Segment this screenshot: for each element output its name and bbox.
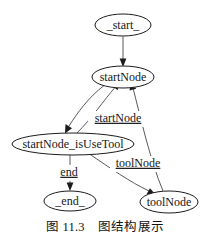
node-start[interactable]: _start_	[95, 14, 151, 36]
edge-label-toolnode: toolNode	[110, 156, 167, 172]
edge-label-toolnode-text: toolNode	[116, 156, 161, 170]
edge-label-startnode-text: startNode	[95, 111, 142, 125]
node-end[interactable]: _end_	[44, 191, 96, 211]
node-startnode-label: startNode	[100, 70, 147, 84]
arrow-head	[67, 182, 74, 191]
node-toolnode[interactable]: toolNode	[140, 191, 198, 213]
node-toolnode-label: toolNode	[147, 195, 192, 209]
figure-container: _start_ startNode startNode_isUseTool _e…	[0, 0, 210, 241]
figure-caption: 图 11.3 图结构展示	[0, 216, 210, 235]
edge-label-end: end	[54, 165, 84, 181]
arrow-head	[65, 124, 72, 134]
node-startnode-isusetool-label: startNode_isUseTool	[22, 137, 124, 151]
node-startnode-isusetool[interactable]: startNode_isUseTool	[12, 133, 134, 155]
node-start-label: _start_	[106, 18, 141, 32]
edge-toolnode-to-startnode	[130, 81, 164, 191]
node-end-label: _end_	[54, 194, 85, 208]
node-startnode[interactable]: startNode	[92, 66, 154, 88]
edge-label-end-text: end	[60, 165, 77, 179]
edge-start-to-startnode	[120, 37, 127, 68]
edge-line	[133, 88, 163, 191]
graph-diagram: _start_ startNode startNode_isUseTool _e…	[0, 0, 210, 216]
edge-label-startnode: startNode	[88, 111, 148, 127]
